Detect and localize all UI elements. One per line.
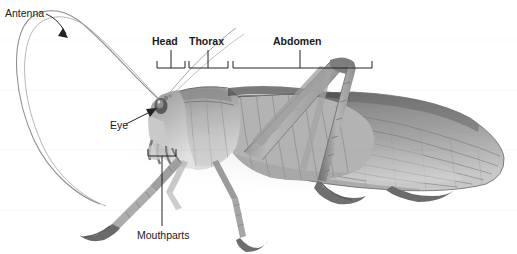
annotation-lines xyxy=(0,0,517,254)
eye-leader xyxy=(126,108,157,124)
head-bracket xyxy=(157,50,185,68)
label-antenna: Antenna xyxy=(5,8,44,19)
label-eye: Eye xyxy=(110,120,128,131)
thorax-bracket xyxy=(189,50,228,68)
antenna-leader xyxy=(46,14,68,38)
abdomen-bracket xyxy=(233,50,372,68)
label-abdomen: Abdomen xyxy=(273,36,321,47)
label-thorax: Thorax xyxy=(189,36,224,47)
label-head: Head xyxy=(152,36,178,47)
mouthparts-bracket xyxy=(148,149,176,226)
insect-anatomy-figure: Antenna Eye Mouthparts Head Thorax Abdom… xyxy=(0,0,517,254)
label-mouthparts: Mouthparts xyxy=(137,230,190,241)
